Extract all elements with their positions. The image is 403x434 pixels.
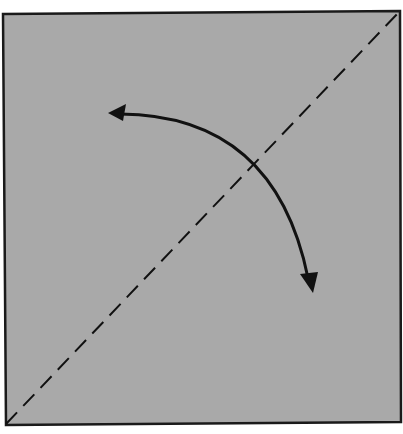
fold-diagram [0,0,403,434]
